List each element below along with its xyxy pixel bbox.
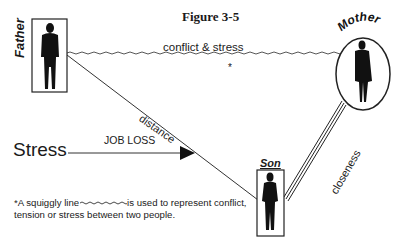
mother-label: Mother: [335, 10, 384, 34]
figure-title: Figure 3-5: [182, 9, 239, 25]
conflict-footnote-marker: *: [228, 62, 232, 73]
footnote: *A squiggly lineis used to represent con…: [14, 197, 254, 221]
son-label: Son: [260, 157, 281, 169]
stress-label: Stress: [13, 139, 67, 161]
arrowhead-icon: [180, 146, 195, 160]
squiggly-line-sample-icon: [79, 200, 127, 206]
footnote-prefix: *A squiggly line: [14, 197, 79, 208]
job-loss-label: JOB LOSS: [104, 134, 155, 146]
conflict-label: conflict & stress: [163, 41, 244, 53]
father-label: Father: [12, 18, 27, 58]
